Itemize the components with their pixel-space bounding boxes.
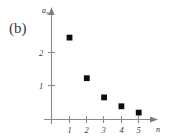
data-point-marker — [101, 95, 107, 101]
x-axis-label: n — [156, 125, 160, 134]
x-tick-label-3: 3 — [100, 125, 105, 135]
figure-panel-b: (b) 2 1 1 2 3 4 5 a n n — [0, 0, 169, 139]
y-tick-label-1: 1 — [39, 81, 43, 91]
data-point-marker — [84, 75, 90, 81]
y-axis-label: a — [42, 6, 46, 15]
data-point-marker — [119, 103, 125, 109]
y-axis-arrow-icon — [49, 7, 55, 15]
x-tick-label-4: 4 — [119, 125, 124, 135]
data-point-marker — [136, 110, 142, 116]
x-tick-label-1: 1 — [67, 125, 71, 135]
x-tick-label-5: 5 — [136, 125, 140, 135]
scatter-plot-chart: 2 1 1 2 3 4 5 a n n — [0, 0, 169, 139]
y-tick-label-2: 2 — [39, 48, 44, 58]
y-axis-label-subscript: n — [47, 10, 50, 16]
data-point-marker — [67, 35, 73, 41]
x-axis-arrow-icon — [150, 117, 158, 123]
x-tick-label-2: 2 — [84, 125, 89, 135]
